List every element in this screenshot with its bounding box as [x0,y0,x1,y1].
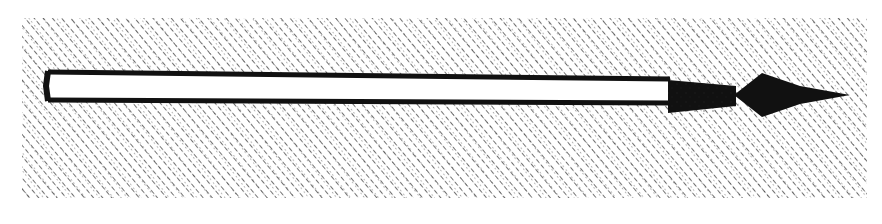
spear-socket [668,80,736,113]
hatched-background [22,18,867,198]
spear-illustration [0,0,882,224]
spear-shaft [46,71,670,103]
